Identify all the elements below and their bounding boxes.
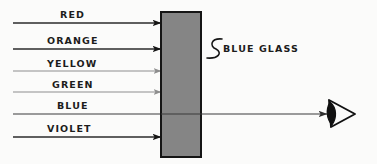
ray-label-violet: VIOLET [47,124,92,134]
eye-icon [327,100,355,127]
ray-label-yellow: YELLOW [47,59,97,69]
ray-label-blue: BLUE [57,101,89,111]
blue-glass-slab [161,12,201,157]
glass-slab-group [161,12,201,157]
ray-label-orange: ORANGE [47,36,99,46]
ray-label-green: GREEN [52,80,94,90]
blue-glass-label: BLUE GLASS [223,44,299,54]
glass-label-leader-line [207,39,222,58]
optics-diagram: REDORANGEYELLOWGREENBLUEVIOLET BLUE GLAS… [0,0,377,164]
ray-label-red: RED [60,10,85,20]
